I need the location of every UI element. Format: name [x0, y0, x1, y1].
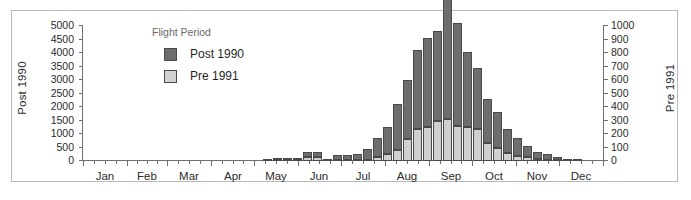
legend: Flight Period Post 1990Pre 1991	[152, 26, 302, 91]
x-axis-minor-tick	[94, 161, 95, 164]
bar-segment-pre-1991	[473, 129, 482, 161]
bar-segment-pre-1991	[403, 139, 412, 161]
x-axis-minor-tick	[147, 161, 148, 164]
right-axis-tick-label: 900	[611, 34, 645, 45]
x-axis-minor-tick	[440, 161, 441, 164]
right-axis-tick-label: 800	[611, 47, 645, 58]
x-axis-minor-tick	[189, 161, 190, 164]
left-axis-tick-label: 0	[40, 155, 74, 166]
x-axis-label-jan: Jan	[81, 170, 129, 182]
right-axis-tick-label: 400	[611, 101, 645, 112]
x-axis-label-oct: Oct	[470, 170, 518, 182]
bar-segment-post-1990	[493, 112, 502, 147]
x-axis-minor-tick	[548, 161, 549, 164]
x-axis-minor-tick	[494, 161, 495, 164]
bar-segment-pre-1991	[553, 159, 562, 161]
left-axis-tick-label: 4000	[40, 47, 74, 58]
x-axis-minor-tick	[105, 161, 106, 164]
x-axis-label-feb: Feb	[123, 170, 171, 182]
left-axis-title: Post 1990	[16, 48, 28, 128]
right-axis-tick	[604, 25, 608, 26]
x-axis-minor-tick	[157, 161, 158, 164]
x-axis-label-mar: Mar	[165, 170, 213, 182]
x-axis-major-tick	[341, 161, 342, 166]
x-axis-major-tick	[211, 161, 212, 166]
left-axis-tick-label: 3000	[40, 74, 74, 85]
right-axis-tick-label: 300	[611, 115, 645, 126]
x-axis-minor-tick	[570, 161, 571, 164]
bar-segment-pre-1991	[413, 129, 422, 161]
bar-segment-post-1990	[573, 159, 582, 161]
right-axis-tick	[604, 133, 608, 134]
x-axis-minor-tick	[374, 161, 375, 164]
x-axis-minor-tick	[537, 161, 538, 164]
bar-segment-pre-1991	[423, 127, 432, 161]
x-axis-major-tick	[167, 161, 168, 166]
bar-segment-pre-1991	[433, 121, 442, 162]
x-axis-minor-tick	[265, 161, 266, 164]
bar-segment-post-1990	[453, 23, 462, 126]
chart-figure: Post 1990 Pre 1991 050010001500200025003…	[0, 0, 691, 200]
right-axis-tick	[604, 39, 608, 40]
legend-item-pre-1991: Pre 1991	[152, 69, 302, 83]
bar-segment-pre-1991	[453, 126, 462, 161]
x-axis-major-tick	[429, 161, 430, 166]
x-axis-minor-tick	[407, 161, 408, 164]
left-axis-tick-label: 2500	[40, 88, 74, 99]
bar-segment-pre-1991	[313, 157, 322, 161]
x-axis-minor-tick	[451, 161, 452, 164]
x-axis-minor-tick	[116, 161, 117, 164]
x-axis-label-nov: Nov	[513, 170, 561, 182]
x-axis-major-tick	[559, 161, 560, 166]
x-axis-label-jul: Jul	[339, 170, 387, 182]
bar-segment-pre-1991	[393, 150, 402, 161]
x-axis-minor-tick	[243, 161, 244, 164]
right-axis-tick	[604, 79, 608, 80]
right-axis-title: Pre 1991	[664, 48, 676, 128]
x-axis-minor-tick	[396, 161, 397, 164]
x-axis-major-tick	[603, 161, 604, 166]
bar-segment-pre-1991	[503, 153, 512, 161]
bar-segment-pre-1991	[513, 156, 522, 161]
x-axis-minor-tick	[233, 161, 234, 164]
x-axis-minor-tick	[319, 161, 320, 164]
bar-segment-post-1990	[523, 146, 532, 157]
bar-segment-post-1990	[483, 99, 492, 144]
x-axis-minor-tick	[363, 161, 364, 164]
x-axis-label-sep: Sep	[427, 170, 475, 182]
x-axis-minor-tick	[287, 161, 288, 164]
left-axis-tick-label: 1500	[40, 115, 74, 126]
x-axis-minor-tick	[309, 161, 310, 164]
legend-swatch-icon	[164, 70, 177, 83]
left-axis-tick-label: 1000	[40, 128, 74, 139]
legend-entries: Post 1990Pre 1991	[152, 47, 302, 83]
left-axis-tick-label: 4500	[40, 34, 74, 45]
right-axis-tick	[604, 93, 608, 94]
x-axis-minor-tick	[137, 161, 138, 164]
x-axis-minor-tick	[581, 161, 582, 164]
x-axis-label-jun: Jun	[295, 170, 343, 182]
x-axis-minor-tick	[592, 161, 593, 164]
x-axis-major-tick	[516, 161, 517, 166]
bar-segment-pre-1991	[443, 119, 452, 161]
x-axis-label-may: May	[252, 170, 300, 182]
right-axis-tick	[604, 66, 608, 67]
bar-segment-post-1990	[443, 0, 452, 119]
bar-segment-pre-1991	[373, 157, 382, 161]
bar-segment-pre-1991	[383, 154, 392, 161]
right-axis-tick	[604, 106, 608, 107]
right-axis-tick	[604, 147, 608, 148]
right-axis-tick	[604, 52, 608, 53]
bar-segment-post-1990	[383, 127, 392, 154]
bar-segment-post-1990	[263, 159, 272, 161]
x-axis-major-tick	[127, 161, 128, 166]
bar-segment-pre-1991	[343, 159, 352, 161]
bar-segment-post-1990	[513, 138, 522, 156]
x-axis-minor-tick	[418, 161, 419, 164]
bar-segment-pre-1991	[493, 148, 502, 162]
x-axis-major-tick	[254, 161, 255, 166]
right-axis-tick-label: 600	[611, 74, 645, 85]
left-axis-tick-label: 5000	[40, 20, 74, 31]
x-axis-minor-tick	[330, 161, 331, 164]
right-axis-tick	[604, 160, 608, 161]
